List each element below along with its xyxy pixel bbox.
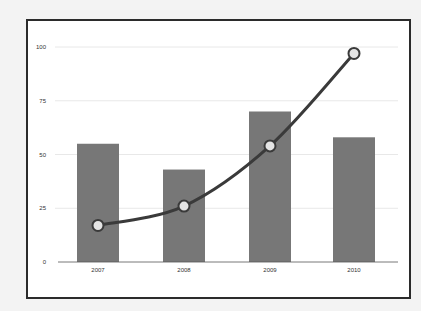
chart: 0255075100 2007200820092010 (0, 0, 421, 311)
bar-2010 (333, 137, 375, 262)
x-tick-label: 2010 (347, 267, 361, 273)
y-tick-label: 75 (39, 98, 46, 104)
bar-2007 (77, 144, 119, 262)
line-marker-2010 (349, 48, 360, 59)
bar-2008 (163, 170, 205, 262)
line-marker-2008 (179, 201, 190, 212)
y-tick-label: 0 (43, 259, 47, 265)
bar-series (77, 112, 375, 263)
y-axis-ticks: 0255075100 (36, 44, 47, 265)
y-tick-label: 25 (39, 205, 46, 211)
line-path (98, 53, 354, 225)
x-tick-label: 2008 (177, 267, 191, 273)
y-tick-label: 100 (36, 44, 47, 50)
x-axis-ticks: 2007200820092010 (91, 267, 361, 273)
line-marker-2007 (93, 220, 104, 231)
y-tick-label: 50 (39, 152, 46, 158)
line-series (93, 48, 360, 231)
x-tick-label: 2009 (263, 267, 277, 273)
x-tick-label: 2007 (91, 267, 105, 273)
line-marker-2009 (265, 140, 276, 151)
bar-2009 (249, 112, 291, 263)
